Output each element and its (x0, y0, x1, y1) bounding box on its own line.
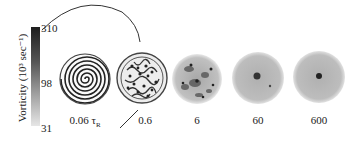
panels-graphic (0, 0, 364, 144)
diffuse-vortex-disk (172, 54, 222, 104)
central-vortex-disk-600 (293, 51, 345, 103)
panel-label-4: 60 (253, 114, 264, 126)
zoom-line-lower (120, 110, 138, 128)
panel-label-1: 0.06 τR (69, 114, 100, 129)
panel-label-3: 6 (194, 114, 200, 126)
panel-label-2: 0.6 (138, 114, 152, 126)
panel-label-5: 600 (311, 114, 328, 126)
spiral-disk (59, 53, 111, 105)
central-vortex-disk-60 (232, 52, 284, 104)
zoom-arc-upper (42, 5, 140, 42)
vorticity-figure: 310 98 31 Vorticity (10³ sec⁻¹) (0, 0, 364, 144)
turbulent-disk (117, 53, 167, 103)
